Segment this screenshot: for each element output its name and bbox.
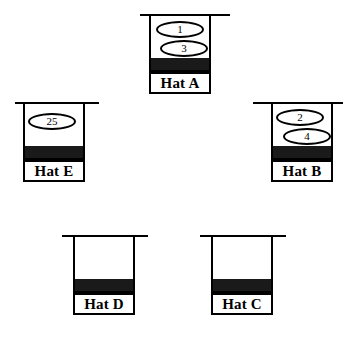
hat-a-label: Hat A: [161, 76, 200, 91]
hat-c: Hat C: [200, 235, 290, 319]
hat-a-token-2: 3: [160, 40, 208, 57]
hat-d-label-plate: Hat D: [73, 293, 135, 315]
hat-e-band: [25, 146, 83, 158]
hat-a-token-1: 1: [156, 21, 204, 38]
hat-b-token-1-label: 2: [297, 112, 303, 123]
hat-b: 2 4 Hat B: [253, 102, 345, 186]
hat-c-crown: [211, 237, 273, 293]
hat-a: 1 3 Hat A: [140, 14, 230, 98]
hat-e-token-1: 25: [28, 113, 76, 130]
hat-e-label: Hat E: [35, 164, 74, 179]
hats-diagram: 1 3 Hat A 25 Hat E 2: [0, 0, 356, 338]
hat-a-token-2-label: 3: [181, 43, 187, 54]
hat-a-crown: 1 3: [149, 16, 211, 72]
hat-d-band: [75, 279, 133, 291]
hat-e: 25 Hat E: [15, 102, 105, 186]
hat-e-crown: 25: [23, 104, 85, 160]
hat-a-label-plate: Hat A: [149, 72, 211, 94]
hat-b-crown: 2 4: [271, 104, 333, 160]
hat-d-crown: [73, 237, 135, 293]
hat-c-band: [213, 279, 271, 291]
hat-c-label-plate: Hat C: [211, 293, 273, 315]
hat-d: Hat D: [62, 235, 152, 319]
hat-b-token-2-label: 4: [304, 131, 310, 142]
hat-b-token-1: 2: [276, 109, 324, 126]
hat-b-label-plate: Hat B: [271, 160, 333, 182]
hat-b-label: Hat B: [283, 164, 322, 179]
hat-e-token-1-label: 25: [47, 116, 58, 127]
hat-b-token-2: 4: [283, 128, 331, 145]
hat-b-band: [273, 146, 331, 158]
hat-a-band: [151, 58, 209, 70]
hat-d-label: Hat D: [84, 297, 124, 312]
hat-e-label-plate: Hat E: [23, 160, 85, 182]
hat-c-label: Hat C: [222, 297, 262, 312]
hat-a-token-1-label: 1: [177, 24, 183, 35]
